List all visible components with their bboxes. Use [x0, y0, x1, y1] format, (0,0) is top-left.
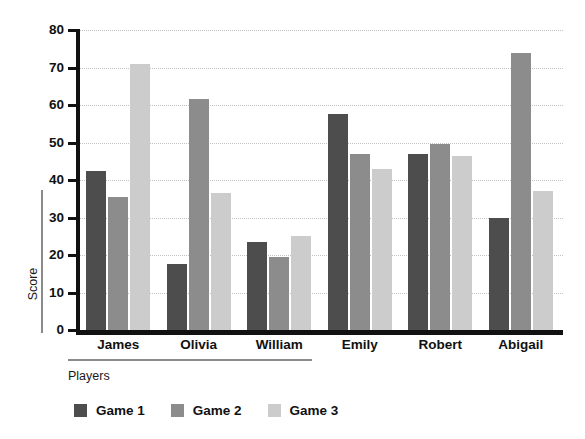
bar — [247, 242, 267, 330]
legend-item[interactable]: Game 1 — [74, 403, 145, 418]
plot-area — [80, 30, 563, 330]
legend-item[interactable]: Game 2 — [171, 403, 242, 418]
x-axis-label-abigail: Abigail — [471, 337, 571, 352]
bar — [269, 257, 289, 330]
legend-swatch-icon — [74, 404, 87, 417]
bar — [489, 218, 509, 331]
y-axis-tick-label: 80 — [26, 23, 64, 37]
bar — [211, 193, 231, 330]
legend-label: Game 1 — [96, 403, 145, 418]
legend-swatch-icon — [268, 404, 281, 417]
bar — [350, 154, 370, 330]
y-axis-tick — [68, 179, 76, 182]
y-axis-tick-label: 0 — [26, 323, 64, 337]
bar — [167, 264, 187, 330]
bar — [291, 236, 311, 330]
legend-swatch-icon — [171, 404, 184, 417]
y-axis-tick-label: 50 — [26, 136, 64, 150]
bars-layer — [80, 30, 563, 330]
y-axis-tick — [68, 104, 76, 107]
legend-label: Game 3 — [290, 403, 339, 418]
y-axis-tick-label: 70 — [26, 61, 64, 75]
bar — [511, 53, 531, 331]
legend: Game 1Game 2Game 3 — [74, 403, 364, 418]
y-axis-tick-label: 30 — [26, 211, 64, 225]
y-axis-tick — [68, 29, 76, 32]
bar — [533, 191, 553, 330]
bar — [372, 169, 392, 330]
y-axis-tick-label: 60 — [26, 98, 64, 112]
x-axis-title: Players — [68, 369, 110, 383]
legend-item[interactable]: Game 3 — [268, 403, 339, 418]
bar — [408, 154, 428, 330]
legend-label: Game 2 — [193, 403, 242, 418]
bar — [189, 99, 209, 330]
bar-chart: Score 01020304050607080 JamesOliviaWilli… — [0, 0, 585, 439]
y-axis-tick — [68, 292, 76, 295]
bar — [328, 114, 348, 330]
x-axis-title-rule — [68, 359, 312, 361]
bar — [130, 64, 150, 330]
y-axis-tick — [68, 254, 76, 257]
bar — [86, 171, 106, 330]
y-axis-tick — [68, 67, 76, 70]
bar — [430, 144, 450, 330]
y-axis-tick — [68, 329, 76, 332]
bar — [452, 156, 472, 330]
y-axis-tick — [68, 142, 76, 145]
x-axis-line — [76, 330, 563, 335]
y-axis-tick — [68, 217, 76, 220]
y-axis-tick-label: 40 — [26, 173, 64, 187]
bar — [108, 197, 128, 330]
y-axis-tick-label: 20 — [26, 248, 64, 262]
y-axis-tick-label: 10 — [26, 286, 64, 300]
